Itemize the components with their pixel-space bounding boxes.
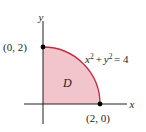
curve-equation: x2+y2= 4 xyxy=(84,52,129,66)
point-2-0-dot xyxy=(98,102,103,107)
eq-equals: = 4 xyxy=(114,53,129,65)
eq-plus: + xyxy=(96,53,102,65)
eq-y-exp: 2 xyxy=(109,52,113,61)
point-2-0-label: (2, 0) xyxy=(86,112,110,125)
region-label: D xyxy=(62,76,72,90)
point-0-2-label: (0, 2) xyxy=(3,41,27,54)
x-axis-label: x xyxy=(129,98,135,110)
region-diagram: y x (0, 2) (2, 0) D x2+y2= 4 xyxy=(0,0,146,132)
eq-x-exp: 2 xyxy=(90,52,94,61)
y-axis-label: y xyxy=(38,11,44,23)
point-0-2-dot xyxy=(41,45,46,50)
